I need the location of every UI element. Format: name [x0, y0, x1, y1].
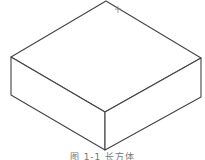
figure-caption: 图 1-1 长方体	[0, 150, 205, 160]
box-diagram	[0, 0, 205, 160]
